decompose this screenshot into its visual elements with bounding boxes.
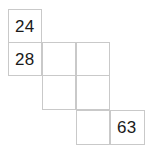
- cell-r4c4[interactable]: 63: [110, 110, 145, 145]
- cell-r4c3[interactable]: [76, 110, 110, 145]
- cell-r2c3[interactable]: [76, 42, 110, 76]
- cell-r1c1[interactable]: 24: [8, 9, 42, 43]
- cell-r2c2[interactable]: [42, 42, 76, 76]
- cell-r2c1[interactable]: 28: [8, 42, 42, 76]
- cell-r3c2[interactable]: [42, 75, 76, 110]
- cell-r3c3[interactable]: [76, 75, 110, 110]
- cell-value: 24: [9, 18, 35, 35]
- puzzle-grid: 242863: [0, 0, 151, 155]
- cell-value: 63: [111, 119, 137, 136]
- cell-value: 28: [9, 51, 35, 68]
